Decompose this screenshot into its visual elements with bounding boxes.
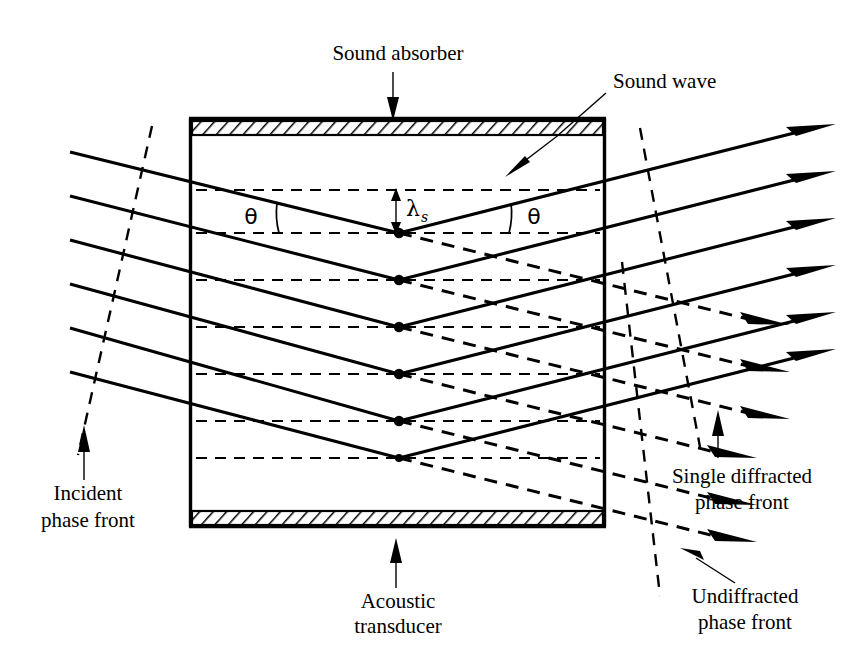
incident-rays [70, 152, 399, 458]
scatter-node-3 [394, 322, 404, 332]
undiffracted-ray-1 [399, 233, 760, 322]
theta-left-label: θ [244, 204, 257, 229]
theta-left-arc [276, 203, 279, 233]
incident-ray-6 [70, 372, 399, 458]
sound-wave-arrowhead [505, 156, 530, 177]
acoustic-transducer-label-line1: Acoustic [361, 589, 436, 613]
lambda-s-label: λ [406, 196, 420, 221]
scatter-node-4 [394, 369, 404, 379]
diffracted-ray-4 [399, 271, 806, 374]
acoustic-transducer-label-line2: transducer [354, 614, 441, 638]
incident-ray-1 [70, 152, 399, 233]
figure-root: Sound absorber Sound wave Acoustic trans… [0, 0, 854, 656]
sound-absorber-label: Sound absorber [332, 41, 463, 65]
scattering-nodes [394, 228, 404, 462]
undiffracted-label-line2: phase front [698, 610, 792, 634]
lambda-s-subscript: s [421, 209, 428, 225]
undiffracted-ray-2 [399, 280, 760, 369]
arrowhead-dashed-6 [707, 529, 757, 542]
diffracted-ray-1 [399, 130, 806, 233]
incident-phase-front-label-line1: Incident [54, 481, 123, 505]
undiffracted-ray-3 [399, 327, 760, 416]
single-diffracted-phase-front-line [640, 128, 700, 447]
incident-ray-3 [70, 240, 399, 327]
theta-right-arc [509, 203, 512, 233]
acoustic-transducer-bar [192, 511, 603, 525]
single-diffracted-label-line2: phase front [695, 490, 789, 514]
incident-ray-4 [70, 284, 399, 374]
incident-ray-2 [70, 196, 399, 280]
incident-phase-front-label-line2: phase front [41, 508, 135, 532]
arrowhead-dashed-3 [740, 406, 790, 419]
diagram-canvas: Sound absorber Sound wave Acoustic trans… [0, 0, 854, 656]
single-diffracted-arrowhead [712, 410, 724, 436]
undiffracted-label-line1: Undiffracted [692, 584, 799, 608]
diffracted-ray-3 [399, 224, 806, 327]
single-diffracted-label-line1: Single diffracted [672, 464, 813, 488]
theta-right-label: θ [527, 204, 540, 229]
arrowhead-dashed-4 [707, 445, 757, 458]
incident-front-arrowhead [78, 425, 90, 452]
acoustic-transducer-arrowhead [390, 538, 402, 563]
scatter-node-5 [394, 416, 404, 426]
solid-ray-arrowheads [786, 124, 836, 361]
scatter-node-6 [395, 454, 403, 462]
undiffracted-leader [696, 558, 735, 583]
sound-wave-label: Sound wave [613, 69, 716, 93]
diffracted-ray-2 [399, 177, 806, 280]
undiffracted-ray-5 [399, 421, 727, 502]
undiffracted-arrowhead [680, 548, 704, 560]
scatter-node-2 [394, 275, 404, 285]
sound-absorber-bar [192, 121, 603, 135]
